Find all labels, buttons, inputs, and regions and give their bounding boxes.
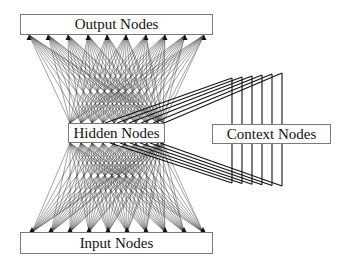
connection-line xyxy=(140,143,262,185)
connection-line xyxy=(141,75,262,123)
connection-line xyxy=(68,35,70,123)
input-nodes-label: Input Nodes xyxy=(80,236,154,251)
output-nodes-box: Output Nodes xyxy=(20,14,213,35)
connection-line xyxy=(48,35,114,123)
context-nodes-box: Context Nodes xyxy=(212,124,331,144)
connection-line xyxy=(70,143,184,232)
connection-line xyxy=(70,143,103,232)
connection-line xyxy=(48,35,70,123)
connection-line xyxy=(48,35,147,123)
hidden-to-output-connections xyxy=(27,35,207,123)
connection-line xyxy=(129,76,252,123)
hidden-nodes-box: Hidden Nodes xyxy=(68,123,165,143)
connection-line xyxy=(32,143,81,232)
elman-network-diagram: Output Nodes Hidden Nodes Context Nodes … xyxy=(0,0,347,273)
context-nodes-label: Context Nodes xyxy=(227,127,317,142)
connection-line xyxy=(88,35,136,123)
hidden-nodes-label: Hidden Nodes xyxy=(73,126,159,141)
input-nodes-box: Input Nodes xyxy=(20,232,213,254)
connection-line xyxy=(48,35,163,123)
connection-line xyxy=(164,73,282,123)
output-nodes-label: Output Nodes xyxy=(75,17,159,32)
